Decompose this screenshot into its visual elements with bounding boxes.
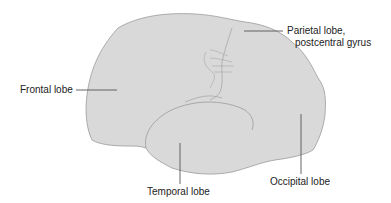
temporal-lobe-label: Temporal lobe: [147, 186, 210, 198]
cerebrum-outline: [86, 14, 325, 174]
frontal-lobe-label: Frontal lobe: [20, 84, 73, 96]
occipital-lobe-label: Occipital lobe: [270, 176, 330, 188]
postcentral-gyrus-label: postcentral gyrus: [295, 37, 371, 49]
parietal-lobe-label: Parietal lobe,: [287, 25, 345, 37]
